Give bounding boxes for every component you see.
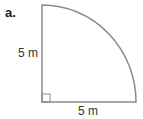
vertical-radius-label: 5 m — [18, 46, 38, 60]
right-angle-marker — [42, 94, 50, 102]
horizontal-radius-label: 5 m — [78, 104, 98, 118]
quarter-circle-outline — [42, 5, 136, 102]
